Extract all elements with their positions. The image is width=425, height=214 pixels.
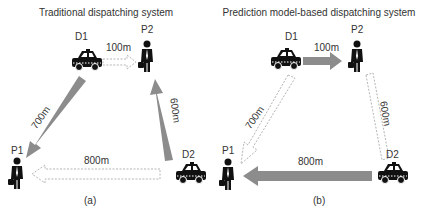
taxi-icon	[72, 49, 102, 71]
edge-d2-p1-solid	[243, 166, 372, 186]
taxi-icon	[378, 162, 408, 184]
panel-prediction: Prediction model-based dispatching syste…	[213, 0, 425, 214]
node-label-d1: D1	[75, 31, 88, 42]
taxi-icon	[271, 48, 301, 70]
edge-d1-p2-solid	[303, 52, 342, 70]
person-icon	[348, 41, 363, 73]
person-icon	[219, 159, 234, 191]
person-icon	[8, 158, 23, 190]
taxi-icon	[176, 162, 206, 184]
node-label-p2: P2	[141, 24, 153, 35]
panel-caption: (a)	[84, 195, 96, 206]
node-label-d2: D2	[182, 149, 195, 160]
panel-traditional: Traditional dispatching system	[0, 0, 212, 214]
node-label-p1: P1	[11, 145, 23, 156]
edge-d2-p1-dashed	[32, 165, 160, 183]
edge-label-d2-p1: 800m	[84, 155, 109, 166]
edge-d2-p2-solid	[150, 79, 173, 161]
edge-label-d1-p2: 100m	[314, 42, 339, 53]
node-label-p2: P2	[351, 24, 363, 35]
node-label-p1: P1	[222, 145, 234, 156]
edge-label-d2-p1: 800m	[298, 156, 323, 167]
diagram-prediction	[213, 0, 425, 214]
edge-d1-p2-dashed	[103, 55, 136, 69]
person-icon	[138, 41, 153, 73]
edge-label-d1-p2: 100m	[106, 42, 131, 53]
node-label-d1: D1	[285, 31, 298, 42]
panel-caption: (b)	[313, 195, 325, 206]
node-label-d2: D2	[386, 149, 399, 160]
